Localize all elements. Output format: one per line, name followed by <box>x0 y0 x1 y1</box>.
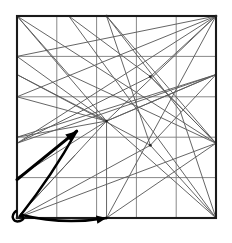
vertex-corner-bottom-left <box>16 217 19 220</box>
vertex-hub-lower-right <box>149 144 152 147</box>
vertex-corner-top-right <box>215 15 218 18</box>
vertex-hub-upper-right <box>149 75 152 78</box>
billiard-trajectory-figure <box>0 0 232 243</box>
vertex-edge-top-mid <box>105 15 108 18</box>
figure-root <box>0 0 232 243</box>
vertex-hub-center-left <box>105 120 108 123</box>
